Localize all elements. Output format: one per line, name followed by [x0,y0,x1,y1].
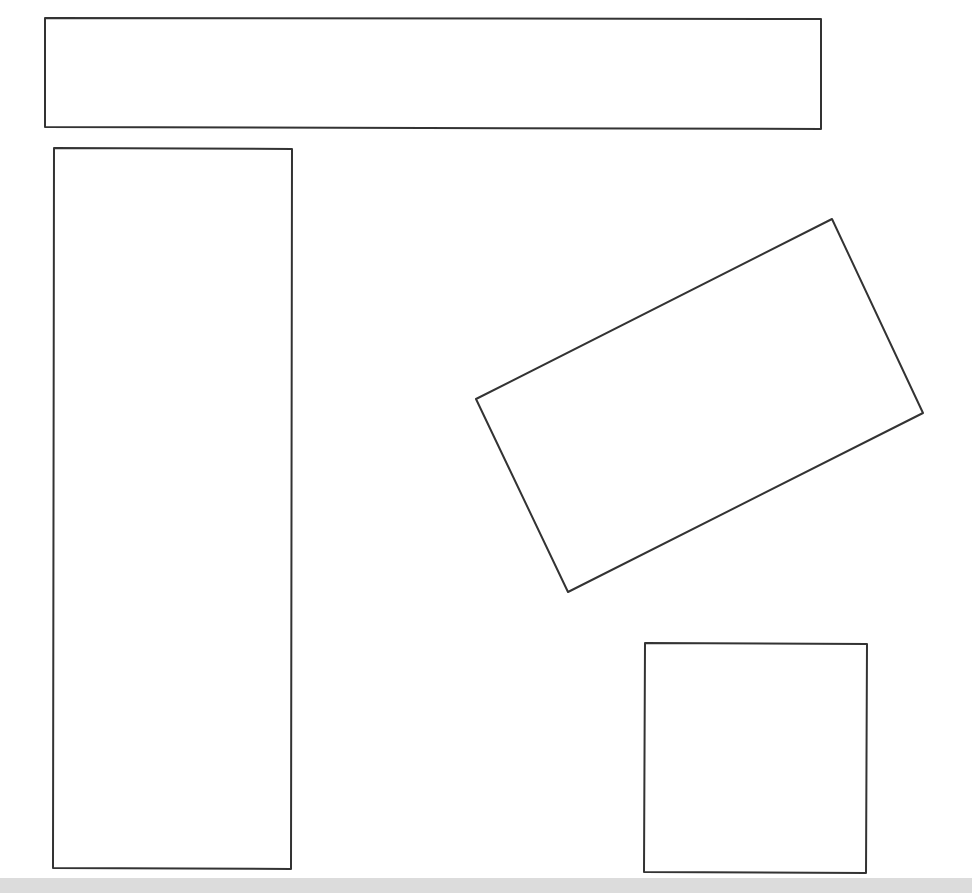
canvas-background [0,0,972,893]
bottom-scan-band [0,878,972,893]
diagram-canvas [0,0,972,893]
